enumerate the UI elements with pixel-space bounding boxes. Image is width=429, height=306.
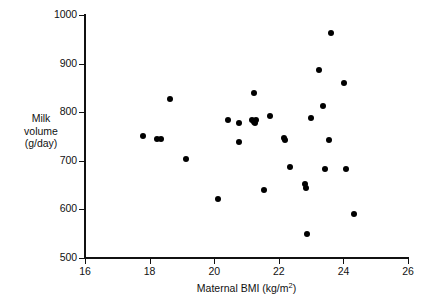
y-tick-mark <box>79 64 85 65</box>
x-axis-title-tail: ) <box>293 282 297 294</box>
x-tick-mark <box>408 259 409 264</box>
y-tick-label: 900 <box>31 58 77 69</box>
data-point <box>304 231 310 237</box>
plot-area <box>85 15 408 258</box>
x-tick-label: 24 <box>328 266 358 277</box>
data-point <box>326 137 332 143</box>
x-tick-mark <box>214 259 215 264</box>
data-point <box>322 166 328 172</box>
y-tick-label: 500 <box>31 252 77 263</box>
x-axis-title-base: Maternal BMI (kg/m <box>197 282 289 294</box>
y-tick-mark <box>79 112 85 113</box>
x-axis-title: Maternal BMI (kg/m2) <box>85 282 408 294</box>
x-tick-label: 18 <box>135 266 165 277</box>
data-point <box>251 90 257 96</box>
y-tick-mark <box>79 161 85 162</box>
y-tick-label: 1000 <box>31 9 77 20</box>
data-point <box>167 96 173 102</box>
x-tick-label: 26 <box>393 266 423 277</box>
x-tick-mark <box>150 259 151 264</box>
y-axis-title-line-2: volume <box>6 125 76 138</box>
x-tick-label: 20 <box>199 266 229 277</box>
y-tick-mark <box>79 209 85 210</box>
y-tick-label: 600 <box>31 203 77 214</box>
y-axis-line <box>84 14 86 259</box>
data-point <box>328 30 334 36</box>
x-tick-label: 16 <box>70 266 100 277</box>
data-point <box>303 185 309 191</box>
x-tick-mark <box>85 259 86 264</box>
x-tick-mark <box>343 259 344 264</box>
y-tick-label: 700 <box>31 155 77 166</box>
scatter-plot-figure: 5006007008009001000 161820222426 Milk vo… <box>0 0 429 306</box>
y-axis-title: Milk volume (g/day) <box>6 112 76 150</box>
data-point <box>308 115 314 121</box>
x-tick-mark <box>279 259 280 264</box>
y-axis-title-line-1: Milk <box>6 112 76 125</box>
y-axis-title-line-3: (g/day) <box>6 137 76 150</box>
data-point <box>253 117 259 123</box>
data-point <box>215 196 221 202</box>
x-axis-line <box>84 257 409 259</box>
y-tick-mark <box>79 15 85 16</box>
x-tick-label: 22 <box>264 266 294 277</box>
